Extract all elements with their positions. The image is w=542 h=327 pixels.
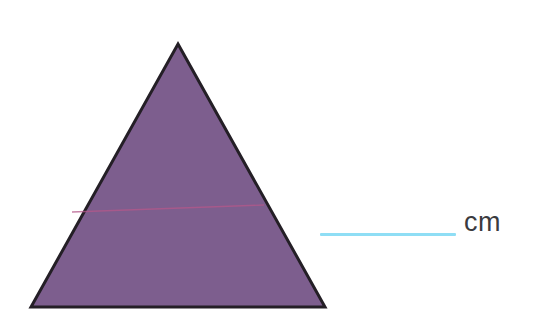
worksheet-canvas: cm (0, 0, 542, 327)
triangle-figure (0, 0, 542, 327)
answer-area: cm (318, 206, 518, 246)
triangle-shape (31, 44, 325, 307)
unit-label: cm (464, 206, 501, 238)
answer-blank-line[interactable] (320, 233, 456, 236)
